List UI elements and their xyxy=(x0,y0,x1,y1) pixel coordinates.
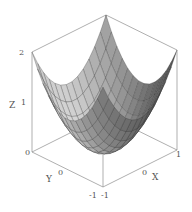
surface-plot: 2 1 Z 0 0 Y -1 -1 0 X 1 xyxy=(0,0,192,212)
x-tick-1: 1 xyxy=(176,150,181,159)
x-tick-minus1: -1 xyxy=(101,191,109,200)
y-axis-label: Y xyxy=(45,174,53,184)
z-tick-2: 2 xyxy=(19,48,24,57)
z-tick-0: 0 xyxy=(25,148,30,157)
z-tick-1: 1 xyxy=(21,98,26,107)
y-tick-0: 0 xyxy=(58,168,63,177)
x-tick-0: 0 xyxy=(142,168,147,177)
x-axis-label: X xyxy=(152,172,159,182)
paraboloid-surface xyxy=(32,15,177,154)
y-tick-minus1: -1 xyxy=(89,191,97,200)
z-axis-label: Z xyxy=(9,100,15,110)
